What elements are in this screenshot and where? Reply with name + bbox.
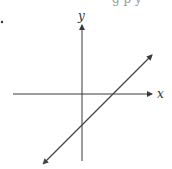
y-axis-label: y bbox=[77, 9, 85, 23]
cropped-top-text: g p y bbox=[112, 0, 142, 6]
bullet-dot bbox=[1, 21, 3, 23]
x-axis-label: x bbox=[157, 87, 164, 101]
linear-function-line bbox=[46, 55, 152, 161]
coordinate-diagram: g p y x y bbox=[0, 0, 172, 169]
